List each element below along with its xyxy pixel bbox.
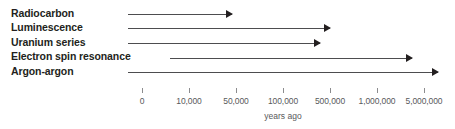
axis-tick-label: 50,000 (223, 97, 248, 106)
axis-tick-mark (377, 88, 378, 93)
axis-tick-label: 0 (140, 97, 145, 106)
axis-tick-label: 100,000 (268, 97, 298, 106)
axis-tick-label: 5,000,000 (406, 97, 443, 106)
axis-tick-mark (330, 88, 331, 93)
time-axis: 010,00050,000100,000500,0001,000,0005,00… (0, 0, 455, 129)
dating-methods-timeline-figure: RadiocarbonLuminescenceUranium seriesEle… (0, 0, 455, 129)
axis-tick-mark (236, 88, 237, 93)
axis-tick-label: 1,000,000 (359, 97, 396, 106)
axis-tick-label: 10,000 (176, 97, 201, 106)
axis-caption: years ago (264, 112, 301, 121)
axis-tick-label: 500,000 (315, 97, 345, 106)
axis-tick-mark (142, 88, 143, 93)
axis-tick-mark (283, 88, 284, 93)
axis-tick-mark (424, 88, 425, 93)
axis-tick-mark (189, 88, 190, 93)
